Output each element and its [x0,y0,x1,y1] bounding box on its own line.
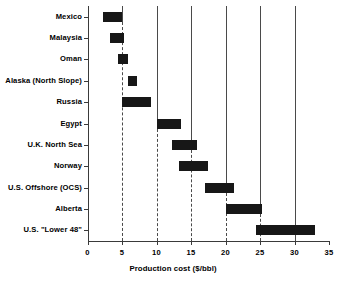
y-axis-tick [84,145,88,146]
y-axis-label-alaska-north-slope: Alaska (North Slope) [5,76,82,85]
y-axis-tick [84,102,88,103]
gridline-solid-5 [122,6,123,22]
bar-u-s-offshore-ocs [205,183,235,193]
bar-u-s-lower-48 [256,225,315,235]
y-axis-tick [84,59,88,60]
x-axis-tick-label-20: 20 [213,248,239,257]
y-axis-tick [84,188,88,189]
x-axis-title: Production cost ($/bbl) [0,264,346,273]
y-axis-label-russia: Russia [56,97,82,106]
production-cost-range-chart: MexicoMalaysiaOmanAlaska (North Slope)Ru… [0,0,346,281]
bar-norway [179,161,208,171]
x-axis-tick [226,241,227,245]
x-axis-tick [329,241,330,245]
y-axis-line [88,6,89,241]
y-axis-label-u-s-offshore-ocs: U.S. Offshore (OCS) [8,183,82,192]
gridline-dashed-10 [157,129,158,242]
y-axis-label-malaysia: Malaysia [50,33,82,42]
x-axis-tick-label-35: 35 [316,248,342,257]
y-axis-tick [84,124,88,125]
bar-oman [118,54,128,64]
bar-alberta [226,204,263,214]
x-axis-tick [260,241,261,245]
x-axis-tick-label-10: 10 [144,248,170,257]
y-axis-tick [84,209,88,210]
y-axis-label-norway: Norway [54,161,82,170]
x-axis-tick [191,241,192,245]
gridline-solid-25 [260,6,261,214]
y-axis-label-mexico: Mexico [56,12,82,21]
y-axis-label-u-k-north-sea: U.K. North Sea [27,140,82,149]
bar-alaska-north-slope [128,76,138,86]
x-axis-tick-label-30: 30 [282,248,308,257]
y-axis-label-u-s-lower-48: U.S. "Lower 48" [24,225,83,234]
x-axis-tick [122,241,123,245]
bar-russia [122,97,151,107]
y-axis-tick [84,230,88,231]
y-axis-label-oman: Oman [60,54,82,63]
bar-mexico [103,12,122,22]
y-axis-tick [84,81,88,82]
bar-malaysia [110,33,124,43]
bar-egypt [157,119,182,129]
x-axis-tick [157,241,158,245]
x-axis-tick-label-25: 25 [247,248,273,257]
gridline-solid-20 [226,6,227,193]
y-axis-label-alberta: Alberta [55,204,82,213]
x-axis-tick-label-5: 5 [109,248,135,257]
x-axis-tick-label-0: 0 [75,248,101,257]
x-axis-tick [88,241,89,245]
x-axis-tick-label-15: 15 [178,248,204,257]
gridline-dashed-20 [226,193,227,241]
x-axis-line [88,241,330,242]
y-axis-tick [84,38,88,39]
y-axis-label-egypt: Egypt [60,119,82,128]
y-axis-tick [84,17,88,18]
gridline-solid-15 [191,6,192,150]
bar-u-k-north-sea [172,140,196,150]
gridline-solid-10 [157,6,158,129]
gridline-solid-30 [295,6,296,235]
y-axis-tick [84,166,88,167]
x-axis-tick [295,241,296,245]
